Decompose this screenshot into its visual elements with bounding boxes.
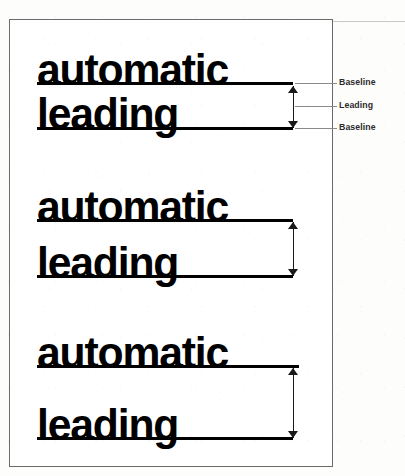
leading-measure-arrow <box>288 222 299 276</box>
specimen-line-1: automatic <box>37 48 228 92</box>
leader-line <box>295 128 337 129</box>
specimen-line-2: leading <box>37 241 178 285</box>
callout-label: Leading <box>339 99 373 110</box>
baseline-rule-top <box>37 82 293 85</box>
baseline-rule-top <box>37 219 293 222</box>
arrow-head-down-icon <box>288 269 298 276</box>
figure-frame: automatic leading automatic leading auto… <box>9 19 333 467</box>
arrow-head-up-icon <box>288 222 298 229</box>
arrow-shaft <box>293 222 294 276</box>
baseline-rule-top <box>37 365 299 368</box>
callout-label: Baseline <box>339 76 376 87</box>
baseline-rule-bottom <box>37 275 293 278</box>
arrow-head-down-icon <box>288 431 298 438</box>
specimen-line-1: automatic <box>37 185 228 229</box>
top-horizontal-rule <box>333 21 405 22</box>
leader-line <box>295 106 337 107</box>
callout-label: Baseline <box>339 121 376 132</box>
leader-line <box>295 83 337 84</box>
specimen-line-2: leading <box>37 403 178 447</box>
baseline-rule-bottom <box>37 437 293 440</box>
baseline-rule-bottom <box>37 127 293 130</box>
leading-measure-arrow <box>288 86 299 128</box>
arrow-head-up-icon <box>288 86 298 93</box>
arrow-head-up-icon <box>288 368 298 375</box>
leading-measure-arrow <box>288 368 299 438</box>
specimen-line-1: automatic <box>37 331 228 375</box>
arrow-shaft <box>293 368 294 438</box>
arrow-head-down-icon <box>288 121 298 128</box>
